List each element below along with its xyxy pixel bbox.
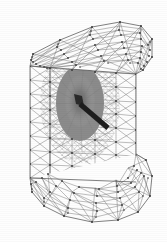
mesh-canvas <box>0 0 167 242</box>
mesh-figure <box>0 0 167 242</box>
bottom-flange-mesh <box>30 154 153 223</box>
top-flange-edges <box>30 22 152 74</box>
top-flange-mesh <box>30 21 153 74</box>
bottom-flange-edges <box>30 154 152 222</box>
